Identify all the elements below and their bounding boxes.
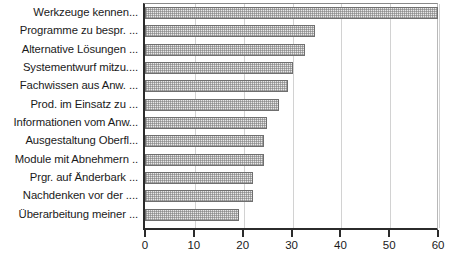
bar <box>145 7 438 19</box>
x-tick-label: 40 <box>334 238 347 252</box>
category-label: Prgr. auf Änderbark ... <box>30 171 138 183</box>
bar <box>145 172 253 184</box>
bar <box>145 80 288 92</box>
bar <box>145 25 315 37</box>
category-label: Überarbeitung meiner ... <box>19 208 138 220</box>
x-tick-label: 30 <box>285 238 298 252</box>
category-label: Ausgestaltung Oberfl... <box>25 134 138 146</box>
category-label: Fachwissen aus Anw. ... <box>20 79 138 91</box>
x-tick-label: 50 <box>383 238 396 252</box>
x-tick <box>242 230 244 237</box>
category-label: Informationen vom Anw... <box>14 116 138 128</box>
category-axis-labels: Werkzeuge kennen...Programme zu bespr. .… <box>0 3 141 230</box>
bar <box>145 62 293 74</box>
category-label: Prod. im Einsatz zu ... <box>30 98 138 110</box>
bar-series <box>145 4 437 228</box>
x-tick <box>291 230 293 237</box>
x-tick-label: 0 <box>142 238 148 252</box>
category-label: Werkzeuge kennen... <box>33 6 138 18</box>
bar <box>145 117 267 129</box>
category-label: Alternative Lösungen ... <box>22 43 138 55</box>
x-tick <box>193 230 195 237</box>
x-tick-label: 20 <box>236 238 249 252</box>
bar <box>145 190 253 202</box>
x-tick-label: 10 <box>187 238 200 252</box>
x-tick <box>339 230 341 237</box>
plot-area <box>143 3 438 230</box>
bar <box>145 209 239 221</box>
x-tick <box>388 230 390 237</box>
x-tick-label: 60 <box>432 238 445 252</box>
category-label: Nachdenken vor der .... <box>23 189 138 201</box>
category-label: Module mit Abnehmern .. <box>15 153 138 165</box>
bar <box>145 99 279 111</box>
bar <box>145 154 264 166</box>
x-axis: 0102030405060 <box>143 230 438 256</box>
category-label: Systementwurf mitzu.... <box>23 61 138 73</box>
x-tick <box>437 230 439 237</box>
gridline <box>439 4 440 228</box>
x-tick <box>144 230 146 237</box>
bar <box>145 135 264 147</box>
bar <box>145 44 305 56</box>
category-label: Programme zu bespr. ... <box>20 24 138 36</box>
bar-chart: Werkzeuge kennen...Programme zu bespr. .… <box>0 0 449 256</box>
